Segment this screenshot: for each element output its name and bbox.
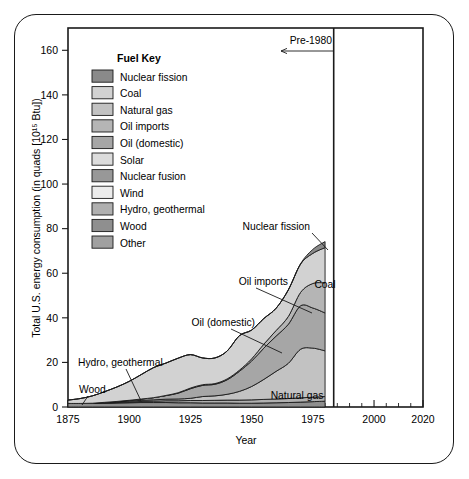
x-tick-label: 1875: [56, 413, 80, 425]
x-axis-title: Year: [235, 434, 257, 446]
x-tick-label: 2000: [362, 413, 386, 425]
legend-label-wind: Wind: [120, 188, 144, 199]
legend-swatch-other: [92, 236, 113, 248]
annotation-oil-domestic-label: Oil (domestic): [191, 317, 255, 328]
annotation-pre-1980: Pre-1980: [281, 35, 333, 54]
legend-swatch-oil-imports: [92, 120, 113, 132]
annotation-natural-gas-label: Natural gas: [271, 390, 324, 401]
annotation-wood-label: Wood: [79, 384, 106, 395]
legend-swatch-hydro-geothermal: [92, 203, 113, 215]
legend-swatch-coal: [92, 87, 113, 99]
legend-label-hydro-geothermal: Hydro, geothermal: [120, 204, 205, 215]
y-tick-label: 20: [46, 356, 58, 368]
annotation-nuclear-fission-label: Nuclear fission: [242, 221, 310, 232]
legend-swatch-oil-domestic: [92, 136, 113, 148]
legend-label-oil-domestic: Oil (domestic): [120, 138, 184, 149]
y-tick-label: 60: [46, 267, 58, 279]
legend-label-nuclear-fission: Nuclear fission: [120, 72, 188, 83]
x-tick-label: 1950: [240, 413, 264, 425]
y-tick-label: 0: [52, 401, 58, 413]
legend-label-other: Other: [120, 238, 146, 249]
legend-label-oil-imports: Oil imports: [120, 121, 169, 132]
legend-swatch-wood: [92, 219, 113, 231]
y-tick-label: 100: [40, 178, 58, 190]
legend-title: Fuel Key: [117, 52, 161, 64]
x-tick-label: 2020: [411, 413, 435, 425]
legend-swatch-nuclear-fusion: [92, 170, 113, 182]
x-tick-label: 1900: [118, 413, 142, 425]
y-tick-label: 120: [40, 133, 58, 145]
annotation-oil-imports-label: Oil imports: [239, 276, 288, 287]
annotation-coal-label: Coal: [314, 279, 335, 290]
x-tick-label: 1925: [179, 413, 203, 425]
annotation-pre-1980-label: Pre-1980: [290, 35, 333, 46]
legend-label-coal: Coal: [120, 88, 141, 99]
annotation-hydro-geothermal-label: Hydro, geothermal: [78, 357, 163, 368]
y-tick-label: 160: [40, 44, 58, 56]
x-tick-label: 1975: [301, 413, 325, 425]
fuel-key-legend: Fuel Key Nuclear fissionCoalNatural gasO…: [92, 52, 205, 249]
legend-swatch-natural-gas: [92, 103, 113, 115]
energy-area-chart: Total U.S. energy consumption (in quads …: [0, 0, 469, 479]
legend-label-nuclear-fusion: Nuclear fusion: [120, 171, 186, 182]
legend-swatch-nuclear-fission: [92, 70, 113, 82]
legend-swatch-wind: [92, 186, 113, 198]
y-tick-label: 40: [46, 312, 58, 324]
y-tick-label: 80: [46, 222, 58, 234]
legend-swatch-solar: [92, 153, 113, 165]
legend-label-natural-gas: Natural gas: [120, 105, 173, 116]
y-axis: 020406080100120140160: [40, 44, 68, 413]
legend-label-solar: Solar: [120, 155, 145, 166]
y-tick-label: 140: [40, 89, 58, 101]
chart-canvas: Total U.S. energy consumption (in quads …: [0, 0, 469, 479]
legend-label-wood: Wood: [120, 221, 147, 232]
annotation-nuclear-fission: Nuclear fission: [242, 221, 328, 250]
